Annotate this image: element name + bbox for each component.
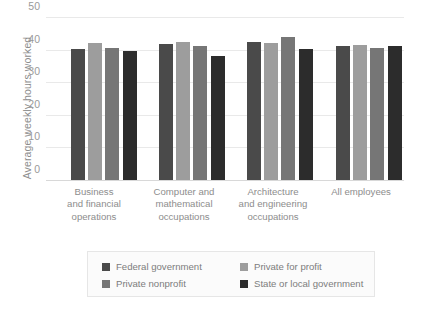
x-axis-label-line: mathematical [140, 198, 228, 210]
legend-label: Private for profit [254, 261, 322, 272]
y-tick-label-10: 10 [28, 130, 40, 142]
bar [247, 42, 261, 181]
legend-label: Federal government [116, 261, 202, 272]
x-axis-label-line: occupations [226, 211, 320, 223]
bar [88, 43, 102, 181]
x-axis-label-line: operations [52, 211, 136, 223]
x-axis-label-line: and financial [52, 198, 136, 210]
bar [264, 43, 278, 181]
x-axis-label-line: Architecture [226, 186, 320, 198]
x-axis-label: Businessand financialoperations [52, 186, 136, 223]
bar [159, 44, 173, 181]
y-tick-label-20: 20 [28, 98, 40, 110]
bar-group [159, 18, 232, 181]
bar [105, 48, 119, 181]
bar-group [71, 18, 144, 181]
legend-item[interactable]: Private for profit [240, 261, 322, 272]
legend-swatch-icon [102, 263, 110, 271]
legend-label: Private nonprofit [116, 278, 186, 289]
bar [353, 45, 367, 181]
bar [176, 42, 190, 181]
x-axis-label-line: and engineering [226, 198, 320, 210]
y-tick-label-50: 50 [28, 0, 40, 12]
bar [299, 49, 313, 181]
bar [281, 37, 295, 181]
legend-swatch-icon [102, 280, 110, 288]
bar-group [247, 18, 320, 181]
x-axis-label: Computer andmathematicaloccupations [140, 186, 228, 223]
legend-label: State or local government [254, 278, 363, 289]
plot-area: 01020304050 [46, 18, 404, 181]
legend-item[interactable]: Federal government [102, 261, 202, 272]
bar [370, 48, 384, 181]
legend-swatch-icon [240, 280, 248, 288]
legend-item[interactable]: State or local government [240, 278, 363, 289]
x-axis-label-line: occupations [140, 211, 228, 223]
chart-legend: Federal governmentPrivate for profitPriv… [87, 251, 375, 297]
y-tick-label-30: 30 [28, 65, 40, 77]
y-tick-label-40: 40 [28, 33, 40, 45]
bar [71, 49, 85, 181]
legend-item[interactable]: Private nonprofit [102, 278, 186, 289]
x-axis-label: All employees [320, 186, 402, 198]
y-tick-label-0: 0 [34, 163, 40, 175]
legend-swatch-icon [240, 263, 248, 271]
bar-chart: Average weekly hours worked 01020304050 … [0, 0, 425, 319]
x-axis-label-line: Computer and [140, 186, 228, 198]
bar [123, 51, 137, 181]
bar [336, 46, 350, 181]
bar [193, 46, 207, 181]
bar [388, 46, 402, 181]
x-axis-label: Architectureand engineeringoccupations [226, 186, 320, 223]
bar [211, 56, 225, 181]
bar-group [336, 18, 409, 181]
x-axis-line [46, 180, 404, 181]
x-axis-label-line: All employees [320, 186, 402, 198]
x-axis-label-line: Business [52, 186, 136, 198]
